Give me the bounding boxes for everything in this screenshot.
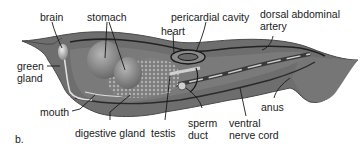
label-pericardial-cavity: pericardial cavity xyxy=(171,11,249,23)
label-testis: testis xyxy=(151,127,176,139)
panel-label: b. xyxy=(15,133,24,145)
label-stomach: stomach xyxy=(87,11,127,23)
label-anus: anus xyxy=(261,101,284,113)
label-ventral-nerve-cord: ventral nerve cord xyxy=(229,117,279,141)
label-dorsal-abdominal-artery: dorsal abdominal artery xyxy=(260,8,340,32)
label-sperm-duct: sperm duct xyxy=(188,117,217,141)
label-mouth: mouth xyxy=(40,106,69,118)
label-digestive-gland: digestive gland xyxy=(75,127,145,139)
brain-organ xyxy=(58,44,68,60)
label-green-gland: green gland xyxy=(17,60,44,84)
sperm-duct-coil xyxy=(178,82,186,90)
stomach-organ-back xyxy=(114,57,142,89)
crayfish-anatomy-diagram: brain stomach pericardial cavity heart d… xyxy=(0,0,362,151)
label-brain: brain xyxy=(40,11,63,23)
label-heart: heart xyxy=(161,25,185,37)
heart-organ xyxy=(178,54,198,61)
